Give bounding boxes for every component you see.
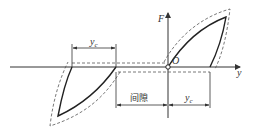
origin-marker <box>166 65 170 69</box>
dim-top-yc-label: yc <box>89 36 98 49</box>
axis-label-y: y <box>236 67 242 78</box>
hysteresis-diagram: F O y yc 间隙 yc <box>0 0 254 140</box>
dim-bottom-yc-label: yc <box>184 92 193 105</box>
left-loop-envelope <box>50 62 120 126</box>
dim-gap-label: 间隙 <box>130 92 148 103</box>
dim-bottom-yc-sub: c <box>189 97 193 105</box>
origin-label: O <box>172 55 179 66</box>
left-loop <box>58 67 116 116</box>
axis-label-f: F <box>157 13 165 24</box>
